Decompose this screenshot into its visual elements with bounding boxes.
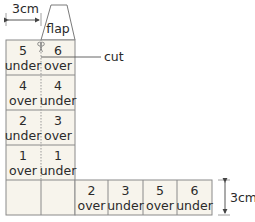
cell-text: under <box>176 198 213 213</box>
flap: flap <box>41 5 75 40</box>
width-dimension: 3cm <box>6 1 41 26</box>
cut-label: cut <box>104 49 124 64</box>
cell-text: over <box>9 163 38 178</box>
cell-text: over <box>9 93 38 108</box>
cell-text: over <box>44 128 73 143</box>
cell-text: 4 <box>19 78 27 93</box>
cell-text: over <box>44 58 73 73</box>
cell-text: 6 <box>54 43 62 58</box>
cell-text: over <box>146 198 175 213</box>
cell-text: 2 <box>19 113 27 128</box>
cell-text: 3 <box>54 113 62 128</box>
width-label: 3cm <box>12 1 39 16</box>
paper-strip-diagram: 3cm flap 5 under 6 over 4 over 4 under 2… <box>0 0 255 222</box>
vertical-column: 5 under 6 over 4 over 4 under 2 under 3 … <box>5 40 77 215</box>
cell-text: under <box>5 128 42 143</box>
cell-text: under <box>107 198 144 213</box>
cell-text: 3 <box>122 183 130 198</box>
cell-text: over <box>78 198 107 213</box>
cell-text: 5 <box>19 43 27 58</box>
cell-text: 1 <box>19 148 27 163</box>
cell-text: 1 <box>54 148 62 163</box>
bottom-strip: 2 over 3 under 5 over 6 under <box>75 180 214 215</box>
height-label: 3cm <box>230 190 255 205</box>
cell-text: 6 <box>191 183 199 198</box>
cell-text: under <box>5 58 42 73</box>
cell-text: under <box>40 93 77 108</box>
cell-text: 2 <box>88 183 96 198</box>
cell-text: 4 <box>54 78 62 93</box>
height-dimension: 3cm <box>218 180 255 215</box>
flap-label: flap <box>46 21 70 36</box>
cell-text: under <box>40 163 77 178</box>
cell-text: 5 <box>156 183 164 198</box>
